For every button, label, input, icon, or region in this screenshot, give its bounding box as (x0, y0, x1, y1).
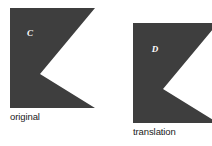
figure-container: C D original translation (0, 0, 212, 146)
caption-original: original (10, 112, 40, 122)
geometry-figure-svg: C D (0, 0, 212, 146)
shape-label-c: C (27, 28, 34, 38)
shape-label-d: D (151, 44, 159, 54)
caption-translation: translation (133, 127, 176, 137)
